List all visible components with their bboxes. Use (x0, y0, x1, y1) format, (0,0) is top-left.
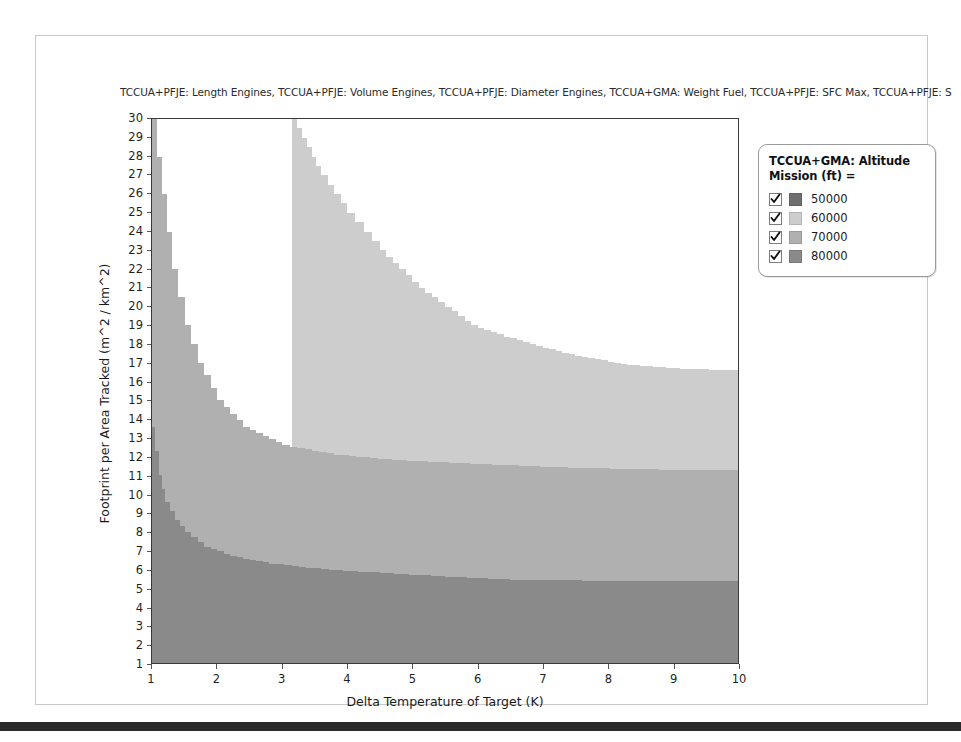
contour-plot-canvas (152, 119, 738, 663)
y-axis-tick-label: 12 (115, 450, 143, 464)
chart-supertitle: TCCUA+PFJE: Length Engines, TCCUA+PFJE: … (120, 86, 961, 101)
screenshot-root: TCCUA+PFJE: Length Engines, TCCUA+PFJE: … (0, 0, 961, 742)
y-axis-ticks: 1234567891011121314151617181920212223242… (113, 118, 143, 664)
x-axis-tick-mark (347, 664, 348, 669)
y-axis-tick-label: 23 (115, 243, 143, 257)
y-axis-tick-mark (147, 513, 151, 514)
x-axis-tick-mark (674, 664, 675, 669)
x-axis-tick-label: 8 (588, 672, 628, 686)
x-axis-tick-mark (543, 664, 544, 669)
legend-checkbox[interactable] (769, 212, 782, 225)
y-axis-tick-label: 24 (115, 224, 143, 238)
y-axis-tick-mark (147, 344, 151, 345)
legend-item-label: 60000 (811, 211, 848, 225)
y-axis-title: Footprint per Area Tracked (m^2 / km^2) (97, 121, 112, 667)
x-axis-tick-mark (412, 664, 413, 669)
legend-panel[interactable]: TCCUA+GMA: Altitude Mission (ft) = 50000… (758, 144, 936, 277)
x-axis-tick-mark (739, 664, 740, 669)
legend-title: TCCUA+GMA: Altitude Mission (ft) = (769, 154, 925, 184)
legend-item-label: 50000 (811, 192, 848, 206)
y-axis-tick-mark (147, 269, 151, 270)
y-axis-tick-label: 16 (115, 375, 143, 389)
y-axis-tick-label: 3 (115, 619, 143, 633)
y-axis-tick-label: 27 (115, 167, 143, 181)
y-axis-tick-mark (147, 495, 151, 496)
y-axis-tick-mark (147, 212, 151, 213)
x-axis-tick-label: 4 (327, 672, 367, 686)
x-axis-tick-mark (282, 664, 283, 669)
legend-title-line1: TCCUA+GMA: Altitude (769, 154, 910, 168)
y-axis-tick-label: 29 (115, 130, 143, 144)
y-axis-tick-mark (147, 400, 151, 401)
y-axis-tick-mark (147, 457, 151, 458)
legend-title-line2: Mission (ft) = (769, 169, 855, 183)
x-axis-title: Delta Temperature of Target (K) (151, 694, 739, 709)
y-axis-tick-mark (147, 250, 151, 251)
y-axis-tick-label: 2 (115, 638, 143, 652)
y-axis-tick-mark (147, 645, 151, 646)
legend-checkbox[interactable] (769, 193, 782, 206)
x-axis-tick-label: 2 (196, 672, 236, 686)
y-axis-tick-mark (147, 438, 151, 439)
y-axis-tick-label: 26 (115, 186, 143, 200)
y-axis-tick-mark (147, 589, 151, 590)
legend-checkbox[interactable] (769, 250, 782, 263)
y-axis-tick-mark (147, 382, 151, 383)
y-axis-tick-label: 4 (115, 601, 143, 615)
y-axis-tick-label: 19 (115, 318, 143, 332)
y-axis-tick-mark (147, 476, 151, 477)
y-axis-tick-label: 18 (115, 337, 143, 351)
y-axis-tick-label: 5 (115, 582, 143, 596)
x-axis-tick-mark (608, 664, 609, 669)
legend-item[interactable]: 50000 (769, 190, 925, 208)
x-axis-ticks: 12345678910 (151, 672, 739, 690)
y-axis-tick-mark (147, 626, 151, 627)
y-axis-tick-mark (147, 532, 151, 533)
y-axis-tick-label: 17 (115, 356, 143, 370)
legend-color-swatch (789, 212, 802, 225)
y-axis-tick-mark (147, 306, 151, 307)
y-axis-tick-mark (147, 608, 151, 609)
y-axis-tick-mark (147, 118, 151, 119)
chart-card: TCCUA+PFJE: Length Engines, TCCUA+PFJE: … (35, 35, 928, 705)
y-axis-tick-mark (147, 137, 151, 138)
x-axis-tick-label: 1 (131, 672, 171, 686)
y-axis-tick-label: 1 (115, 657, 143, 671)
x-axis-tick-mark (216, 664, 217, 669)
y-axis-tick-label: 7 (115, 544, 143, 558)
y-axis-tick-label: 25 (115, 205, 143, 219)
x-axis-tick-label: 5 (392, 672, 432, 686)
y-axis-tick-label: 14 (115, 412, 143, 426)
y-axis-tick-label: 15 (115, 393, 143, 407)
y-axis-tick-label: 8 (115, 525, 143, 539)
y-axis-tick-label: 9 (115, 506, 143, 520)
y-axis-tick-label: 20 (115, 299, 143, 313)
x-axis-tick-label: 7 (523, 672, 563, 686)
y-axis-tick-label: 10 (115, 488, 143, 502)
x-axis-tick-mark (478, 664, 479, 669)
legend-item[interactable]: 80000 (769, 247, 925, 265)
y-axis-tick-mark (147, 156, 151, 157)
y-axis-tick-label: 13 (115, 431, 143, 445)
legend-color-swatch (789, 231, 802, 244)
legend-item[interactable]: 70000 (769, 228, 925, 246)
y-axis-tick-mark (147, 193, 151, 194)
bottom-status-bar (0, 722, 961, 731)
y-axis-tick-label: 21 (115, 280, 143, 294)
legend-item[interactable]: 60000 (769, 209, 925, 227)
plot-area[interactable] (151, 118, 739, 664)
legend-color-swatch (789, 250, 802, 263)
y-axis-tick-label: 22 (115, 262, 143, 276)
y-axis-tick-label: 28 (115, 149, 143, 163)
legend-item-label: 80000 (811, 249, 848, 263)
x-axis-tick-label: 9 (654, 672, 694, 686)
y-axis-tick-label: 30 (115, 111, 143, 125)
y-axis-tick-mark (147, 570, 151, 571)
x-axis-tick-label: 6 (458, 672, 498, 686)
x-axis-tick-label: 10 (719, 672, 759, 686)
x-axis-tick-label: 3 (262, 672, 302, 686)
y-axis-tick-mark (147, 174, 151, 175)
legend-checkbox[interactable] (769, 231, 782, 244)
y-axis-tick-mark (147, 325, 151, 326)
y-axis-tick-label: 6 (115, 563, 143, 577)
